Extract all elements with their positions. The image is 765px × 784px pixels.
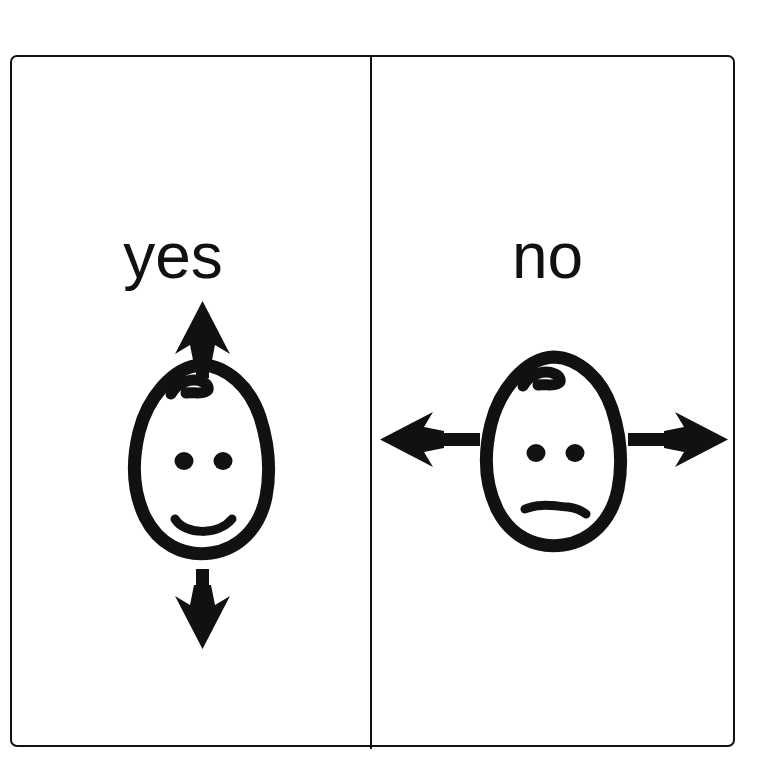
panel-yes[interactable]: yes (12, 57, 370, 749)
mouth-flat-icon (525, 505, 586, 514)
panel-no[interactable]: no (372, 57, 735, 749)
communication-card-frame: yes (10, 55, 735, 747)
face-neutral-icon (486, 357, 620, 546)
arrow-right-icon (628, 412, 728, 467)
eye-right-icon (214, 452, 233, 470)
arrow-left-icon (380, 412, 480, 467)
eye-left-icon (527, 444, 546, 462)
no-pictogram (372, 57, 735, 749)
arrow-down-icon (175, 569, 230, 649)
yes-pictogram (12, 57, 370, 749)
face-happy-icon (134, 365, 268, 554)
eye-left-icon (175, 452, 194, 470)
eye-right-icon (566, 444, 585, 462)
mouth-smile-icon (175, 519, 232, 531)
